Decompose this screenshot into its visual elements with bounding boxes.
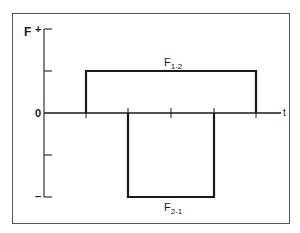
zero-label: 0: [35, 107, 41, 119]
plus-sign: +: [35, 23, 41, 35]
x-axis-label: t: [283, 107, 286, 118]
lower-pulse-label-sub: 2-1: [171, 207, 183, 216]
lower-pulse-f21: [128, 113, 214, 197]
upper-pulse-f12: [86, 71, 256, 113]
lower-pulse-label: F2-1: [164, 201, 183, 216]
upper-pulse-label-sub: 1-2: [171, 62, 183, 71]
upper-pulse-label: F1-2: [164, 56, 183, 71]
minus-sign: –: [35, 190, 41, 202]
force-time-diagram: F + 0 – t F1-2 F2-1: [0, 0, 300, 233]
y-axis-label: F: [24, 25, 31, 39]
frame-border: [13, 14, 290, 224]
